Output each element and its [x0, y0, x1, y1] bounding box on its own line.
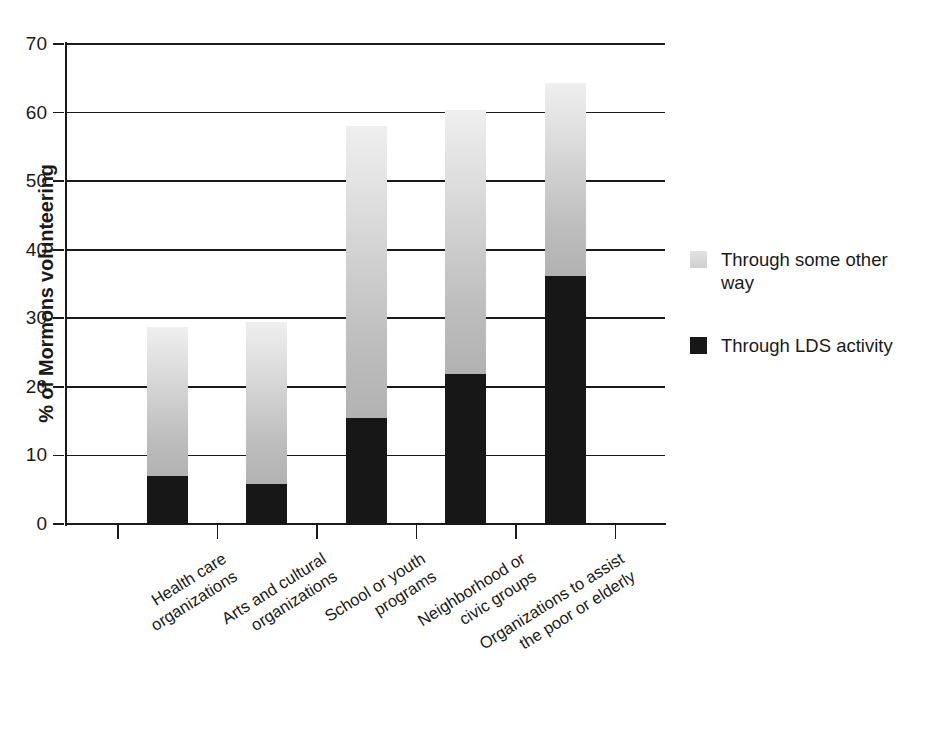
x-tick-mark [117, 525, 119, 539]
y-tick-label: 0 [5, 514, 47, 533]
x-tick-mark [217, 525, 219, 539]
y-tick-mark [53, 386, 64, 388]
bar-segment-lds-activity[interactable] [147, 476, 188, 524]
x-tick-mark [316, 525, 318, 539]
bar-group[interactable] [545, 83, 586, 524]
legend-label-lds: Through LDS activity [721, 334, 893, 357]
y-tick-label: 10 [5, 445, 47, 464]
bar-group[interactable] [445, 110, 486, 524]
stacked-bar-chart: % of Mormons volunteering 70605040302010… [0, 0, 952, 751]
bar-group[interactable] [346, 126, 387, 524]
bar-group[interactable] [246, 322, 287, 524]
y-tick-label: 70 [5, 34, 47, 53]
y-tick-label: 40 [5, 240, 47, 259]
bar-segment-other-way[interactable] [246, 322, 287, 485]
y-tick-mark [53, 317, 64, 319]
chart-legend: Through some otherway Through LDS activi… [690, 248, 940, 397]
y-tick-mark [53, 112, 64, 114]
y-tick-mark [53, 455, 64, 457]
bar-segment-lds-activity[interactable] [346, 418, 387, 524]
bars-container [65, 44, 665, 524]
bar-segment-lds-activity[interactable] [445, 374, 486, 524]
y-tick-label: 30 [5, 308, 47, 327]
bar-group[interactable] [147, 327, 188, 524]
y-tick-label: 60 [5, 103, 47, 122]
y-tick-label: 50 [5, 171, 47, 190]
bar-segment-lds-activity[interactable] [246, 484, 287, 524]
bar-segment-lds-activity[interactable] [545, 276, 586, 524]
y-tick-mark [53, 43, 64, 45]
y-tick-mark [53, 180, 64, 182]
y-tick-label: 20 [5, 377, 47, 396]
x-tick-mark [615, 525, 617, 539]
legend-swatch-lds-icon [690, 337, 707, 354]
bar-segment-other-way[interactable] [346, 126, 387, 418]
bar-segment-other-way[interactable] [445, 110, 486, 374]
bar-segment-other-way[interactable] [147, 327, 188, 476]
legend-item-other[interactable]: Through some otherway [690, 248, 940, 294]
y-tick-mark [53, 249, 64, 251]
legend-swatch-other-icon [690, 251, 707, 268]
x-tick-mark [416, 525, 418, 539]
legend-label-other: Through some otherway [721, 248, 888, 294]
y-tick-mark [53, 523, 64, 525]
bar-segment-other-way[interactable] [545, 83, 586, 276]
x-tick-mark [515, 525, 517, 539]
legend-item-lds[interactable]: Through LDS activity [690, 334, 940, 357]
